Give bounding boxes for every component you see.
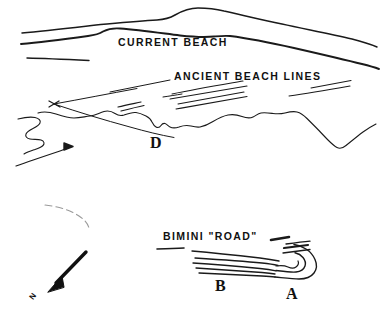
ancient-ridge-3 — [178, 92, 244, 104]
bimini-road-hook-inner — [276, 253, 305, 272]
label-bimini-road: BIMINI "ROAD" — [163, 230, 258, 242]
label-point-b: B — [215, 277, 226, 295]
ancient-beach-line-lower-left-arrowhead — [64, 143, 73, 150]
bimini-road-row-1 — [192, 251, 279, 261]
ancient-beach-line-long-upper — [54, 89, 137, 105]
north-arrow-head — [48, 276, 64, 292]
beach-line-segment-upper-left — [27, 58, 89, 61]
bimini-sketch-map: CURRENT BEACH ANCIENT BEACH LINES BIMINI… — [0, 0, 385, 320]
label-point-a: A — [286, 285, 298, 303]
bimini-road-block-upper-4 — [286, 241, 310, 244]
bimini-road-block-left — [157, 248, 184, 249]
submerged-coastline-left-lobe — [18, 117, 44, 154]
current-beach-inner-shoreline — [21, 28, 379, 69]
ancient-ridge-1 — [172, 81, 243, 94]
label-current-beach: CURRENT BEACH — [118, 36, 228, 48]
north-arrow-icon — [48, 252, 86, 292]
ancient-beach-line-long-upper-b — [110, 80, 170, 92]
bimini-road-row-5 — [199, 273, 275, 277]
ancient-beach-line-long-lower — [54, 104, 174, 138]
map-drawing-canvas — [0, 0, 385, 320]
ancient-ridge-right-2 — [289, 86, 350, 96]
faint-reef-curve — [45, 205, 89, 228]
label-point-d: D — [150, 134, 162, 152]
ancient-ridge-mid-small-2 — [121, 106, 144, 112]
bimini-road-hook-notch — [276, 261, 298, 268]
label-ancient-beach-lines: ANCIENT BEACH LINES — [174, 70, 321, 82]
bimini-road-block-upper-3 — [283, 250, 310, 254]
ancient-beach-line-lower-left — [16, 147, 71, 167]
submerged-coastline-main — [38, 111, 376, 148]
ancient-ridge-mid-small-1 — [118, 102, 141, 107]
bimini-road-row-3 — [193, 263, 276, 271]
bimini-road-block-upper-1 — [271, 237, 289, 240]
